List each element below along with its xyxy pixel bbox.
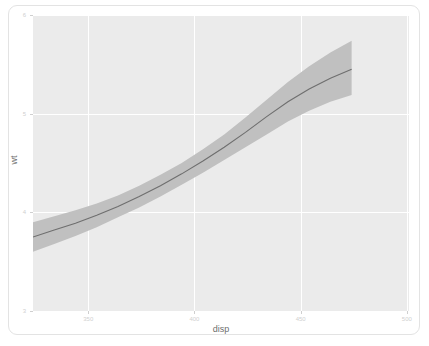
tick-mark-x-350: [88, 311, 89, 314]
tick-mark-y-5: [30, 114, 33, 115]
tick-label-x-400: 400: [182, 316, 206, 322]
tick-mark-y-4: [30, 212, 33, 213]
y-axis-title: wt: [9, 156, 19, 165]
tick-mark-x-500: [407, 311, 408, 314]
plot-panel: [33, 15, 409, 311]
tick-mark-x-400: [194, 311, 195, 314]
x-axis-title: disp: [33, 324, 409, 334]
chart-figure: 3456350400450500 disp wt: [0, 0, 429, 346]
tick-label-x-350: 350: [76, 316, 100, 322]
tick-mark-x-450: [301, 311, 302, 314]
tick-label-y-6: 6: [10, 12, 26, 18]
tick-label-y-4: 4: [10, 209, 26, 215]
tick-mark-y-3: [30, 311, 33, 312]
tick-label-y-5: 5: [10, 111, 26, 117]
confidence-band: [33, 41, 352, 252]
tick-label-y-3: 3: [10, 308, 26, 314]
tick-label-x-500: 500: [395, 316, 419, 322]
tick-mark-y-6: [30, 15, 33, 16]
tick-label-x-450: 450: [289, 316, 313, 322]
screenshot-root: 3456350400450500 disp wt: [0, 0, 429, 346]
plot-geometry: [33, 15, 409, 311]
